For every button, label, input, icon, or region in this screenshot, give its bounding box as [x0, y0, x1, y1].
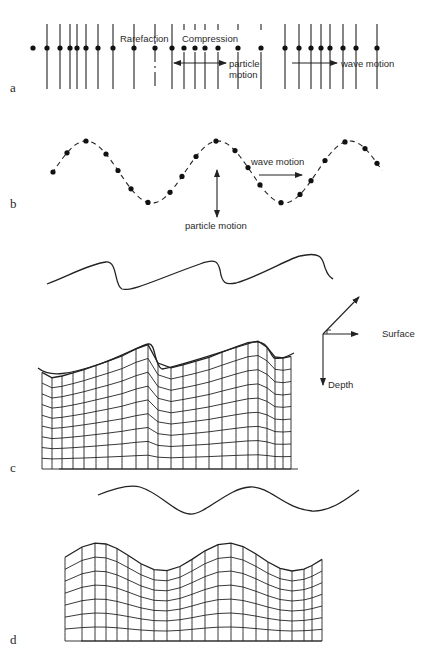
particle-dot [193, 154, 198, 159]
particle-dot [95, 45, 100, 50]
particle-dot [74, 45, 79, 50]
particle-dot [103, 151, 108, 156]
particle-dot [278, 200, 283, 205]
rayleigh-surface-profile [47, 254, 333, 289]
particle-motion-label-line1: particle [229, 58, 260, 69]
compression-label: Compression [182, 33, 238, 44]
part-label-d: d [10, 632, 17, 647]
part-label-b: b [10, 196, 17, 211]
surface-label: Surface [382, 328, 415, 339]
grid-row-line [42, 384, 291, 408]
particle-dot [297, 192, 302, 197]
particle-dot [342, 139, 347, 144]
particle-dot [30, 45, 35, 50]
particle-dot [308, 45, 313, 50]
particle-dot [115, 168, 120, 173]
particle-dot [340, 45, 345, 50]
particle-dot [374, 45, 379, 50]
particle-dot [83, 138, 88, 143]
wave-motion-label: wave motion [250, 156, 304, 167]
grid-row-line [65, 627, 322, 631]
grid-row-line [65, 585, 322, 601]
particle-dot [110, 45, 115, 50]
particle-dot [67, 45, 72, 50]
particle-motion-label: particle motion [185, 220, 247, 231]
particle-dot [308, 178, 313, 183]
part-a-longitudinal-wave: Rarefaction Compression particle motion … [10, 24, 394, 95]
particle-dot [374, 161, 379, 166]
wave-motion-label: wave motion [340, 58, 394, 69]
particle-dot [258, 45, 263, 50]
part-c-rayleigh-wave: Surface Depth c [10, 254, 415, 475]
particle-dot [50, 169, 55, 174]
part-d-surface-wave: d [10, 486, 359, 647]
rarefaction-label: Rarefaction [120, 33, 169, 44]
particle-dot [57, 45, 62, 50]
grid-row-line [65, 571, 322, 591]
axes-icon: Surface Depth [323, 297, 415, 390]
particle-dot [192, 45, 197, 50]
particle-dot [181, 45, 186, 50]
particles [50, 138, 379, 205]
particle-dot [353, 45, 358, 50]
particle-dot [128, 186, 133, 191]
particle-dot [213, 139, 218, 144]
particle-dot [145, 200, 150, 205]
particle-dot [169, 45, 174, 50]
particle-dot [282, 45, 287, 50]
particle-dot [232, 148, 237, 153]
deformed-grid [38, 341, 298, 469]
particle-dot [318, 45, 323, 50]
particle-dot [322, 158, 327, 163]
particle-dot [83, 45, 88, 50]
grid-row-line [65, 599, 322, 611]
part-label-c: c [10, 460, 16, 475]
particle-vector-arrow-icon [323, 297, 359, 334]
sinusoidal-surface-profile [98, 486, 359, 514]
particle-dot [167, 190, 172, 195]
particle-dot [257, 182, 262, 187]
particle-dot [64, 150, 69, 155]
grid-top-surface [38, 342, 294, 374]
grid-row-line [42, 426, 291, 438]
particle-dot [327, 45, 332, 50]
grid-row-line [42, 341, 291, 377]
particle-dot [215, 45, 220, 50]
deformed-grid [65, 543, 322, 641]
particle-dot [296, 45, 301, 50]
grid-row-line [42, 398, 291, 418]
particle-dot [245, 165, 250, 170]
grid-row-line [65, 613, 322, 621]
wave-motion-figure: Rarefaction Compression particle motion … [0, 0, 434, 663]
particle-dot [131, 45, 136, 50]
part-label-a: a [10, 80, 16, 95]
particle-dot [44, 45, 49, 50]
particle-dot [152, 45, 157, 50]
particle-dot [362, 146, 367, 151]
grid-row-line [42, 441, 291, 449]
part-b-transverse-wave: particle motion wave motion b [10, 138, 382, 231]
particle-motion-label-line2: motion [229, 69, 258, 80]
particle-dot [235, 45, 240, 50]
depth-label: Depth [328, 379, 353, 390]
grid-row-line [42, 455, 291, 459]
angle-mark-icon [327, 330, 331, 334]
particle-dot [202, 45, 207, 50]
particle-dot [179, 174, 184, 179]
grid-row-line [65, 543, 322, 571]
